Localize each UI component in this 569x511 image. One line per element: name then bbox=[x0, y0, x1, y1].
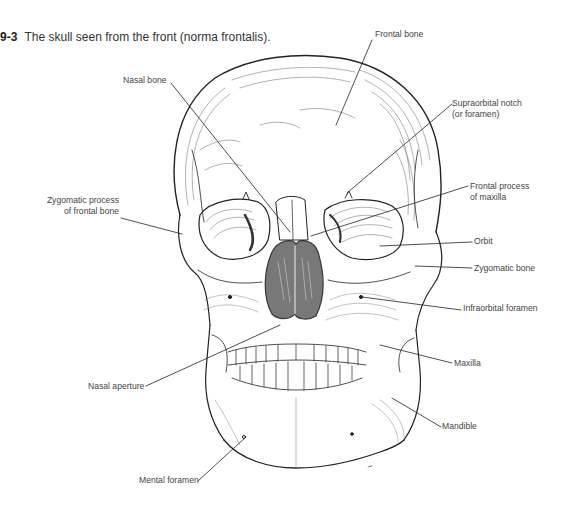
label-nasal-bone: Nasal bone bbox=[123, 75, 166, 86]
mandible: ~ bbox=[215, 398, 404, 472]
label-frontal-process: Frontal process of maxilla bbox=[470, 181, 529, 203]
label-frontal-process-line1: Frontal process bbox=[470, 181, 529, 192]
label-zygomatic-process: Zygomatic process of frontal bone bbox=[45, 195, 119, 217]
label-zygomatic-process-line1: Zygomatic process bbox=[45, 195, 119, 206]
artist-signature: ~ bbox=[365, 461, 375, 472]
label-mandible: Mandible bbox=[442, 421, 477, 432]
label-zygomatic-bone: Zygomatic bone bbox=[474, 263, 535, 274]
label-zygomatic-process-line2: of frontal bone bbox=[45, 206, 119, 217]
label-infraorbital-foramen: Infraorbital foramen bbox=[463, 303, 538, 314]
label-mental-foramen: Mental foramen bbox=[139, 475, 199, 486]
label-frontal-bone: Frontal bone bbox=[375, 29, 423, 40]
label-supraorbital-notch-line1: Supraorbital notch bbox=[452, 98, 522, 109]
label-maxilla: Maxilla bbox=[454, 358, 481, 369]
label-orbit: Orbit bbox=[474, 236, 493, 247]
label-nasal-aperture: Nasal aperture bbox=[88, 381, 144, 392]
cranium bbox=[174, 55, 441, 232]
label-supraorbital-notch-line2: (or foramen) bbox=[452, 109, 522, 120]
nasal-region bbox=[265, 196, 323, 319]
label-frontal-process-line2: of maxilla bbox=[470, 192, 529, 203]
label-supraorbital-notch: Supraorbital notch (or foramen) bbox=[452, 98, 522, 120]
teeth bbox=[228, 344, 366, 390]
skull-illustration: ~ bbox=[0, 0, 569, 511]
